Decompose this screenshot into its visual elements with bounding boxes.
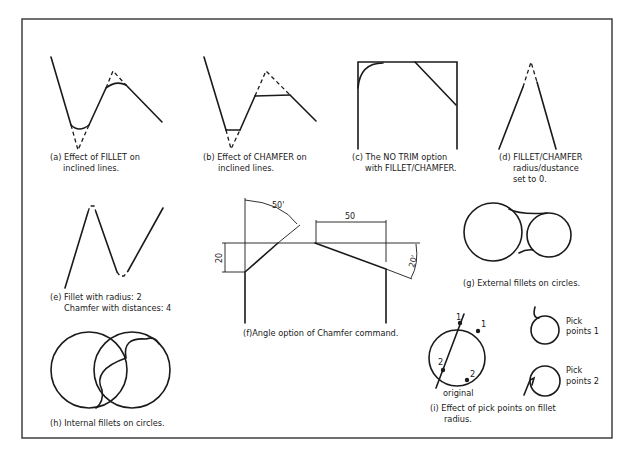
panel-a-caption-2: inclined lines. <box>63 163 119 173</box>
panel-h-internal-fillets: (h) Internal fillets on circles. <box>50 332 170 428</box>
circle-point-1: 1 <box>481 319 486 329</box>
panel-i-caption-2: radius. <box>444 414 472 424</box>
figure-frame <box>22 19 612 438</box>
dim-length-50: 50 <box>345 212 355 221</box>
panel-e-caption-1: (e) Fillet with radius: 2 <box>50 292 142 302</box>
panel-h-caption: (h) Internal fillets on circles. <box>50 418 165 428</box>
dim-angle-20: 20' <box>407 254 419 268</box>
panel-d-caption-1: (d) FILLET/CHAMFER <box>499 152 583 162</box>
panel-c-no-trim: (c) The NO TRIM option with FILLET/CHAMF… <box>352 62 457 173</box>
panel-a-fillet-inclined: (a) Effect of FILLET on inclined lines. <box>50 57 162 173</box>
panel-e-caption-2: Chamfer with distances: 4 <box>64 303 171 313</box>
panel-g-caption: (g) External fillets on circles. <box>463 278 580 288</box>
panel-a-caption-1: (a) Effect of FILLET on <box>50 152 140 162</box>
pick1-label-2: points 1 <box>566 326 599 336</box>
line-point-1: 1 <box>456 312 461 322</box>
pick2-label-1: Pick <box>566 365 583 375</box>
panel-c-caption-2: with FILLET/CHAMFER. <box>365 163 457 173</box>
line-point-2: 2 <box>438 357 443 367</box>
panel-c-caption-1: (c) The NO TRIM option <box>352 152 447 162</box>
panel-g-external-fillets: (g) External fillets on circles. <box>463 203 580 288</box>
panel-f-caption: (f)Angle option of Chamfer command. <box>243 328 398 338</box>
dim-height-20: 20 <box>215 253 224 263</box>
pick1-label-1: Pick <box>566 316 583 326</box>
panel-d-caption-2: radius/dustance <box>513 163 579 173</box>
panel-e-fillet-chamfer: (e) Fillet with radius: 2 Chamfer with d… <box>50 206 171 313</box>
original-label: original <box>443 388 474 398</box>
panel-f-angle-chamfer: 50' 50 20 20' (f)Angle option of Chamfer… <box>215 198 420 338</box>
circle-point-2: 2 <box>470 369 475 379</box>
panel-b-caption-1: (b) Effect of CHAMFER on <box>203 152 307 162</box>
panel-d-caption-3: set to 0. <box>513 174 547 184</box>
panel-b-caption-2: inclined lines. <box>218 163 274 173</box>
panel-d-zero-radius: (d) FILLET/CHAMFER radius/dustance set t… <box>499 62 583 184</box>
dim-angle-50: 50' <box>272 201 284 210</box>
fillet-chamfer-diagram: (a) Effect of FILLET on inclined lines. … <box>0 0 631 454</box>
panel-b-chamfer-inclined: (b) Effect of CHAMFER on inclined lines. <box>203 57 316 173</box>
panel-i-pick-points: 1 2 1 2 original Pick points 1 Pick poin… <box>429 307 599 424</box>
panel-i-caption-1: (i) Effect of pick points on fillet <box>430 403 557 413</box>
pick2-label-2: points 2 <box>566 376 599 386</box>
